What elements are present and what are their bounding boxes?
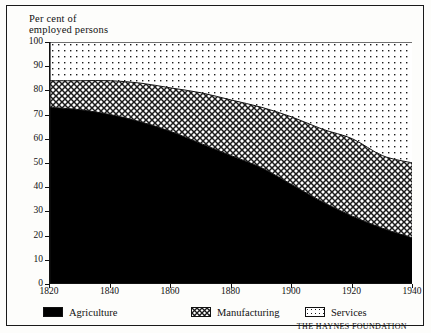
x-tick-mark: [170, 284, 171, 288]
y-tick-mark: [45, 260, 49, 261]
y-tick-label: 90: [13, 61, 43, 71]
y-tick-mark: [45, 90, 49, 91]
y-tick-label: 10: [13, 255, 43, 265]
y-tick-label: 30: [13, 206, 43, 216]
y-tick-mark: [45, 66, 49, 67]
stacked-area-plot: [50, 42, 412, 284]
x-tick-mark: [352, 284, 353, 288]
y-axis-title: Per cent of employed persons: [29, 14, 229, 35]
legend-swatch-icon: [191, 307, 211, 317]
y-tick-mark: [45, 139, 49, 140]
legend-item-manufacturing[interactable]: Manufacturing: [191, 305, 279, 319]
y-tick-label: 50: [13, 158, 43, 168]
chart-page: Per cent of employed persons: [0, 0, 431, 333]
y-tick-mark: [45, 115, 49, 116]
y-tick-mark: [45, 187, 49, 188]
legend-item-services[interactable]: Services: [305, 305, 367, 319]
x-tick-mark: [412, 284, 413, 288]
figure-credit: THE HAYNES FOUNDATION: [297, 322, 407, 331]
x-tick-label: 1900: [271, 287, 311, 297]
legend-swatch-icon: [43, 307, 63, 317]
y-tick-mark: [45, 236, 49, 237]
x-tick-label: 1880: [211, 287, 251, 297]
chart-legend: AgricultureManufacturingServices: [43, 305, 403, 321]
x-tick-label: 1920: [332, 287, 372, 297]
legend-swatch-icon: [305, 307, 325, 317]
y-tick-label: 60: [13, 134, 43, 144]
y-tick-mark: [45, 42, 49, 43]
plot-area: [49, 42, 412, 284]
legend-label: Services: [331, 307, 367, 318]
x-tick-label: 1840: [90, 287, 130, 297]
legend-item-agriculture[interactable]: Agriculture: [43, 305, 117, 319]
legend-label: Agriculture: [69, 307, 117, 318]
x-tick-label: 1820: [29, 287, 69, 297]
legend-label: Manufacturing: [217, 307, 279, 318]
x-tick-label: 1940: [392, 287, 431, 297]
x-tick-mark: [110, 284, 111, 288]
y-tick-label: 80: [13, 85, 43, 95]
y-tick-mark: [45, 163, 49, 164]
x-tick-mark: [49, 284, 50, 288]
x-tick-label: 1860: [150, 287, 190, 297]
figure-frame: Per cent of employed persons: [6, 5, 424, 326]
x-tick-mark: [231, 284, 232, 288]
x-tick-mark: [291, 284, 292, 288]
y-tick-label: 20: [13, 231, 43, 241]
y-tick-label: 100: [13, 37, 43, 47]
y-tick-label: 40: [13, 182, 43, 192]
y-tick-label: 70: [13, 110, 43, 120]
y-tick-mark: [45, 211, 49, 212]
